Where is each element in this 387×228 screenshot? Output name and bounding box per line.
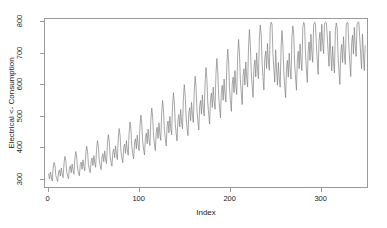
x-tick-mark bbox=[230, 188, 231, 192]
x-tick-label: 0 bbox=[46, 194, 50, 203]
x-tick-label: 100 bbox=[132, 194, 145, 203]
y-tick-label: 400 bbox=[15, 141, 24, 154]
y-axis-title: Electrical <- Consumption bbox=[7, 57, 16, 148]
x-tick-label: 300 bbox=[314, 194, 327, 203]
x-tick-mark bbox=[139, 188, 140, 192]
y-tick-label: 800 bbox=[15, 15, 24, 28]
x-tick-mark bbox=[321, 188, 322, 192]
y-tick-label: 700 bbox=[15, 46, 24, 59]
x-axis-title: Index bbox=[196, 208, 216, 217]
chart-screenshot: Electrical <- Consumption 30040050060070… bbox=[0, 0, 387, 228]
y-tick-label: 600 bbox=[15, 78, 24, 91]
x-tick-label: 200 bbox=[223, 194, 236, 203]
series-line-electrical-consumption bbox=[45, 19, 367, 187]
y-tick-label: 500 bbox=[15, 109, 24, 122]
plot-area bbox=[44, 18, 368, 188]
x-tick-mark bbox=[48, 188, 49, 192]
y-tick-label: 300 bbox=[15, 172, 24, 185]
